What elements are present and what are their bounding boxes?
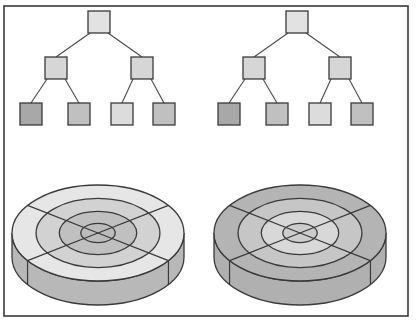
tree-node[interactable] xyxy=(286,11,308,33)
tree-node[interactable] xyxy=(20,103,42,125)
tree-node[interactable] xyxy=(309,103,331,125)
tree-node[interactable] xyxy=(88,11,110,33)
tree-node[interactable] xyxy=(45,57,67,79)
tree-node[interactable] xyxy=(218,103,240,125)
figure-canvas xyxy=(0,0,417,326)
tree-node[interactable] xyxy=(131,57,153,79)
tree-node[interactable] xyxy=(111,103,133,125)
tree-node[interactable] xyxy=(153,103,175,125)
disk-left xyxy=(12,185,184,305)
tree-node[interactable] xyxy=(68,103,90,125)
figure-container xyxy=(0,0,417,326)
tree-node[interactable] xyxy=(351,103,373,125)
tree-node[interactable] xyxy=(266,103,288,125)
tree-node[interactable] xyxy=(243,57,265,79)
disk-right xyxy=(214,185,386,305)
tree-node[interactable] xyxy=(329,57,351,79)
